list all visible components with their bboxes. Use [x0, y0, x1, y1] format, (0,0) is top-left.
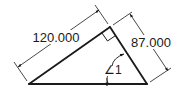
triangle-dimension-drawing: 120.000 87.000 ∠1 — [0, 0, 182, 92]
extension-line-apex-right — [113, 12, 132, 25]
dimension-120-label: 120.000 — [33, 30, 80, 45]
dimension-87-label: 87.000 — [131, 35, 171, 50]
right-angle-marker — [102, 33, 116, 41]
angle-1-label: ∠1 — [104, 63, 122, 77]
extension-line-apex-left — [95, 5, 108, 24]
